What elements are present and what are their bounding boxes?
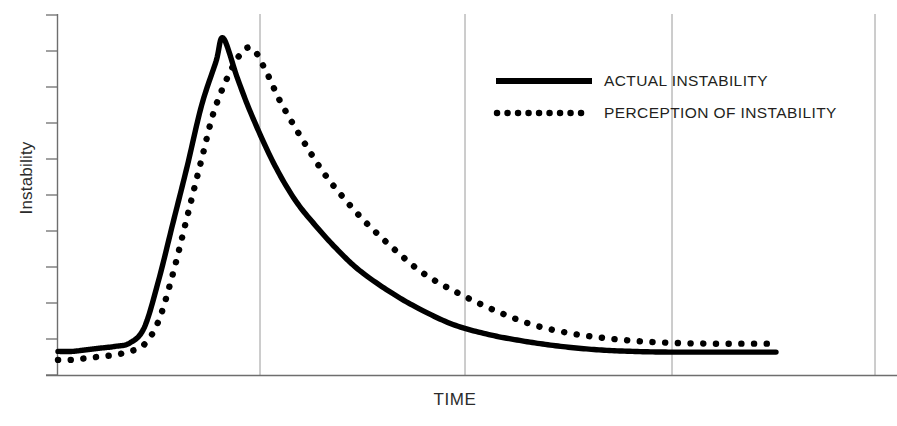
chart-plot-area bbox=[0, 0, 897, 426]
series-line-perception-of-instability bbox=[58, 47, 776, 360]
gridlines-vertical bbox=[260, 14, 875, 375]
legend-label-perception-of-instability: PERCEPTION OF INSTABILITY bbox=[604, 104, 837, 122]
legend-label-actual-instability: ACTUAL INSTABILITY bbox=[604, 72, 768, 90]
legend-swatches bbox=[496, 81, 592, 113]
y-axis-title: Instability bbox=[17, 123, 37, 233]
y-axis-ticks bbox=[46, 15, 57, 375]
x-axis-title: TIME bbox=[375, 390, 535, 410]
instability-chart-figure: Instability TIME ACTUAL INSTABILITY PERC… bbox=[0, 0, 897, 426]
